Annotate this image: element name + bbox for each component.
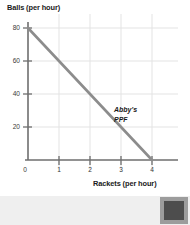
corner-marker-block	[160, 197, 188, 224]
vertical-gridlines	[59, 14, 152, 172]
x-tick-label-1: 1	[52, 166, 66, 173]
ppf-chart-figure: Balls (per hour)	[0, 0, 190, 225]
corner-marker-inner	[164, 201, 184, 220]
series-annotation: Abby's PPF	[114, 105, 137, 125]
series-annotation-line-1: Abby's	[114, 105, 137, 115]
x-tick-label-2: 2	[83, 166, 97, 173]
y-tick-label-80: 80	[4, 24, 20, 31]
y-tick-label-20: 20	[4, 123, 20, 130]
y-tick-label-60: 60	[4, 57, 20, 64]
x-axis-title: Rackets (per hour)	[93, 179, 157, 188]
x-tick-label-4: 4	[145, 166, 159, 173]
x-tick-label-3: 3	[114, 166, 128, 173]
horizontal-gridlines	[28, 28, 178, 127]
series-annotation-line-2: PPF	[114, 115, 137, 125]
origin-label: 0	[18, 166, 32, 173]
plot-area	[0, 0, 190, 225]
y-tick-label-40: 40	[4, 90, 20, 97]
